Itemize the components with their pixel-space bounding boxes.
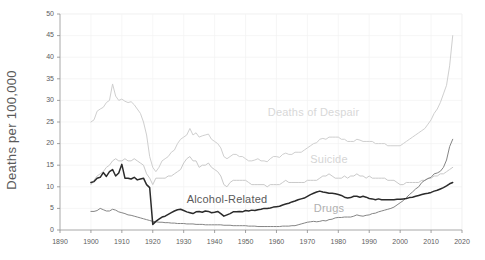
y-tick-label: 40: [46, 53, 54, 60]
series-label-suicide: Suicide: [310, 153, 347, 165]
y-tick-label: 0: [50, 226, 54, 233]
y-tick-label: 15: [46, 161, 54, 168]
y-tick-label: 20: [46, 139, 54, 146]
y-tick-label: 30: [46, 96, 54, 103]
x-tick-label: 1920: [145, 238, 161, 245]
series-label-drugs: Drugs: [314, 202, 345, 214]
x-tick-label: 1940: [207, 238, 223, 245]
chart-svg: 0510152025303540455018901900191019201930…: [40, 8, 472, 256]
x-tick-label: 1960: [269, 238, 285, 245]
x-tick-label: 1890: [52, 238, 68, 245]
y-tick-label: 35: [46, 75, 54, 82]
x-tick-label: 1950: [238, 238, 254, 245]
y-tick-label: 50: [46, 10, 54, 17]
y-tick-label: 25: [46, 118, 54, 125]
series-label-deaths-of-despair: Deaths of Despair: [268, 106, 360, 118]
chart-figure: Deaths per 100,000 051015202530354045501…: [0, 0, 485, 260]
y-tick-label: 5: [50, 204, 54, 211]
series-label-alcohol-related: Alcohol-Related: [187, 193, 268, 205]
x-tick-label: 1970: [300, 238, 316, 245]
x-tick-label: 2020: [454, 238, 470, 245]
plot-area: 0510152025303540455018901900191019201930…: [40, 8, 472, 256]
series-lines: [91, 36, 453, 227]
x-tick-label: 1900: [83, 238, 99, 245]
series-line-alcohol-related: [91, 164, 453, 224]
y-tick-label: 10: [46, 183, 54, 190]
series-line-deaths-of-despair: [91, 36, 453, 172]
x-tick-label: 1910: [114, 238, 130, 245]
x-tick-label: 1980: [331, 238, 347, 245]
y-axis-title: Deaths per 100,000: [0, 0, 22, 260]
x-tick-label: 2010: [423, 238, 439, 245]
x-tick-label: 1930: [176, 238, 192, 245]
y-tick-label: 45: [46, 31, 54, 38]
x-tick-label: 2000: [392, 238, 408, 245]
x-tick-label: 1990: [361, 238, 377, 245]
